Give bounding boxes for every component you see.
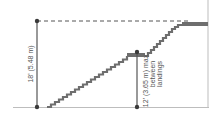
max-between-label: 12' (3.65 m) max. between landings (142, 53, 164, 107)
top-landing (182, 22, 208, 26)
dimension-dot-bottom-left (35, 105, 39, 109)
dimension-dot-mid-bottom (135, 105, 139, 109)
max-between-label-line3: landings (156, 60, 164, 87)
dimension-dot-top-left (35, 19, 39, 23)
lower-stair-flight (47, 56, 127, 107)
stair-diagram: 18' (5.48 m) 12' (3.65 m) max. between l… (0, 0, 224, 119)
upper-stair-flight (145, 25, 182, 56)
total-height-label: 18' (5.48 m) (27, 45, 35, 82)
max-between-label-line2: between (149, 61, 156, 88)
dimension-dot-mid-top (135, 50, 139, 54)
